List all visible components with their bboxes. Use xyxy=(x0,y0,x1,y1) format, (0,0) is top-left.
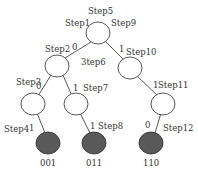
label-step8: Step8 xyxy=(98,121,123,131)
node-left-right xyxy=(64,93,88,115)
node-left xyxy=(45,55,69,77)
label-step12: Step12 xyxy=(163,123,194,133)
edge-rr-leaf xyxy=(155,113,161,133)
label-step5: Step5 xyxy=(88,6,113,16)
node-right xyxy=(118,57,142,79)
node-right-right xyxy=(151,93,175,115)
edge-left-leftright xyxy=(63,75,72,96)
leaf-node-001 xyxy=(36,132,60,154)
label-step6: 3tep6 xyxy=(81,57,106,67)
bit-ll-leaf: 1 xyxy=(29,123,34,133)
bit-lr-leaf: 1 xyxy=(90,121,95,131)
edge-lr-leaf xyxy=(80,113,90,133)
leaf-node-011 xyxy=(82,132,106,154)
bit-right-rightright: 1 xyxy=(153,80,158,90)
binary-tree-diagram: Step5 Step1 Step9 Step2 3tep6 Step10 Ste… xyxy=(0,0,198,179)
bit-root-left: 0 xyxy=(72,42,77,52)
label-step2: Step2 xyxy=(45,44,70,54)
label-step9: Step9 xyxy=(111,18,136,28)
label-step1: Step1 xyxy=(65,18,90,28)
node-left-left xyxy=(21,93,45,115)
bit-left-leftright: 1 xyxy=(73,83,78,93)
bit-left-leftleft: 0 xyxy=(36,81,41,91)
leaf-code-011: 011 xyxy=(86,158,102,168)
edge-ll-leaf xyxy=(37,113,45,133)
leaf-code-110: 110 xyxy=(143,158,159,168)
label-step7: Step7 xyxy=(83,83,108,93)
leaf-code-001: 001 xyxy=(40,158,56,168)
bit-rr-leaf: 0 xyxy=(145,120,150,130)
label-step11: Step11 xyxy=(158,80,189,90)
leaf-node-110 xyxy=(139,132,163,154)
bit-root-right: 1 xyxy=(119,44,124,54)
label-step10: Step10 xyxy=(126,47,157,57)
label-step4: Step4 xyxy=(4,124,29,134)
